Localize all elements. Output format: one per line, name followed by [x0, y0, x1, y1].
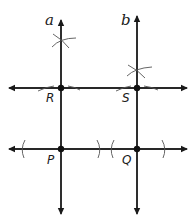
label-point-r: R: [46, 91, 54, 105]
point-q: [134, 146, 140, 152]
label-point-s: S: [122, 91, 130, 105]
label-point-q: Q: [122, 153, 131, 167]
label-point-p: P: [47, 153, 55, 167]
point-s: [134, 85, 140, 91]
label-line-b: b: [121, 11, 131, 29]
construction-diagram: a b R S P Q: [0, 0, 194, 220]
point-p: [58, 146, 64, 152]
construction-arc-b-1: [127, 67, 152, 76]
point-r: [58, 85, 64, 91]
diagram-canvas: a b R S P Q: [0, 0, 194, 220]
label-line-a: a: [45, 11, 54, 29]
